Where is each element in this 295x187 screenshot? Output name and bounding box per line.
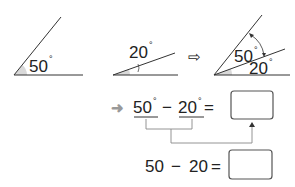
angle-50-label: 50 <box>29 57 48 76</box>
equals-sign: = <box>204 98 214 117</box>
eq1-a: 50 <box>133 98 152 117</box>
minus-sign: − <box>162 98 172 117</box>
right-arrow-icon: ⇨ <box>188 48 201 65</box>
degree-mark: ° <box>254 45 258 55</box>
eq2-a: 50 <box>145 157 164 176</box>
answer-box-1[interactable] <box>231 91 273 119</box>
degree-mark: ° <box>149 40 153 50</box>
equation-numbers: 50 − 20 = <box>145 150 272 179</box>
degree-mark: ° <box>49 54 53 64</box>
degree-mark: ° <box>198 96 202 106</box>
angle-20-figure: 20 ° <box>113 40 178 75</box>
lead-arrow-icon: ➜ <box>111 99 124 116</box>
combined-angle-figure: 50 ° 20 ° <box>214 15 290 78</box>
bracket-connector <box>146 119 255 143</box>
eq2-b: 20 <box>189 157 208 176</box>
equals-sign: = <box>211 157 221 176</box>
angle-20-label: 20 <box>129 43 148 62</box>
degree-mark: ° <box>153 96 157 106</box>
eq1-b: 20 <box>178 98 197 117</box>
combined-20-label: 20 <box>249 59 268 78</box>
angle-diagram: 50 ° 20 ° ⇨ 50 ° 20 ° ➜ 50 ° − 20 ° = <box>0 0 295 187</box>
equation-degrees: ➜ 50 ° − 20 ° = <box>111 91 273 119</box>
angle-50-figure: 50 ° <box>14 17 83 76</box>
answer-box-2[interactable] <box>229 150 272 179</box>
degree-mark: ° <box>269 57 273 67</box>
minus-sign: − <box>171 157 181 176</box>
